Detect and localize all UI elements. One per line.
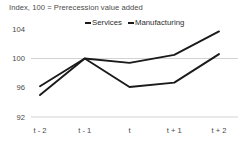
y-tick-label-104: 104	[3, 25, 25, 34]
chart-figure: Index, 100 = Prerecession value added Se…	[0, 0, 240, 143]
y-tick-label-100: 100	[3, 54, 25, 63]
x-tick-label-2: t	[110, 126, 150, 135]
x-tick-label-1: t - 1	[65, 126, 105, 135]
y-tick-label-96: 96	[3, 83, 25, 92]
x-tick-label-3: t + 1	[154, 126, 194, 135]
x-tick-label-0: t - 2	[20, 126, 60, 135]
plot-area	[0, 0, 240, 143]
x-tick-label-4: t + 2	[199, 126, 239, 135]
series-line-manufacturing	[40, 54, 219, 95]
y-tick-label-92: 92	[3, 113, 25, 122]
